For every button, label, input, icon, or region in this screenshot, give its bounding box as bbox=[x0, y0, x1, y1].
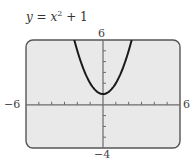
graph-screen bbox=[0, 0, 194, 163]
